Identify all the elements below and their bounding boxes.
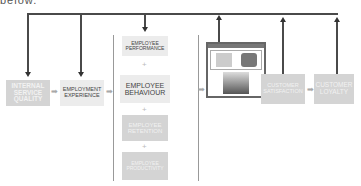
plus-icon: + [142, 105, 147, 114]
employee-behaviour-box: EMPLOYEE BEHAVIOUR [120, 75, 170, 103]
box-label: EMPLOYEE PERFORMANCE [122, 41, 168, 52]
arrow-right-icon: ➡ [307, 85, 314, 94]
customer-satisfaction-box: CUSTOMER SATISFACTION [261, 74, 305, 104]
arrow-up-icon [334, 17, 340, 22]
box-label: EMPLOYEE PRODUCTIVITY [122, 161, 168, 172]
box-label: INTERNAL SERVICE QUALITY [6, 83, 50, 103]
plus-icon: + [142, 60, 147, 69]
box-label: CUSTOMER LOYALTY [314, 82, 354, 96]
caption-fragment: below. [0, 0, 37, 6]
employment-experience-box: EMPLOYMENT EXPERIENCE [60, 80, 104, 106]
arrow-down-icon [142, 27, 148, 32]
arrow-right-icon: ➡ [51, 87, 58, 96]
arrow-right-icon: ➡ [106, 87, 113, 96]
employee-retention-box: EMPLOYEE RETENTION [122, 115, 168, 141]
arrow-up-icon [280, 17, 286, 22]
center-figure [206, 42, 266, 98]
box-label: EMPLOYMENT EXPERIENCE [60, 87, 104, 99]
arrow-down-icon [25, 72, 31, 77]
plus-icon: + [142, 142, 147, 151]
figure-thumb-left [216, 53, 232, 67]
employee-performance-box: EMPLOYEE PERFORMANCE [122, 36, 168, 56]
arrow-right-icon: ➡ [198, 85, 205, 94]
left-vertical-line [27, 13, 29, 73]
box-label: EMPLOYEE BEHAVIOUR [120, 82, 170, 97]
employee-productivity-box: EMPLOYEE PRODUCTIVITY [122, 152, 168, 180]
figure-thumb-right [241, 53, 257, 67]
figure-header [208, 44, 264, 48]
customer-loyalty-box: CUSTOMER LOYALTY [314, 74, 354, 104]
box-label: EMPLOYEE RETENTION [122, 122, 168, 135]
vertical-line-performance [144, 13, 146, 27]
arrow-up-icon [216, 15, 222, 20]
internal-service-quality-box: INTERNAL SERVICE QUALITY [6, 80, 50, 106]
box-label: CUSTOMER SATISFACTION [261, 83, 305, 95]
vertical-line-loyalty [336, 22, 338, 74]
vertical-line-satisfaction [282, 22, 284, 74]
feedback-line [27, 13, 338, 15]
figure-stack [223, 72, 249, 94]
vertical-line-center [218, 20, 220, 42]
vertical-line-experience [80, 13, 82, 73]
arrow-down-icon [78, 72, 84, 77]
